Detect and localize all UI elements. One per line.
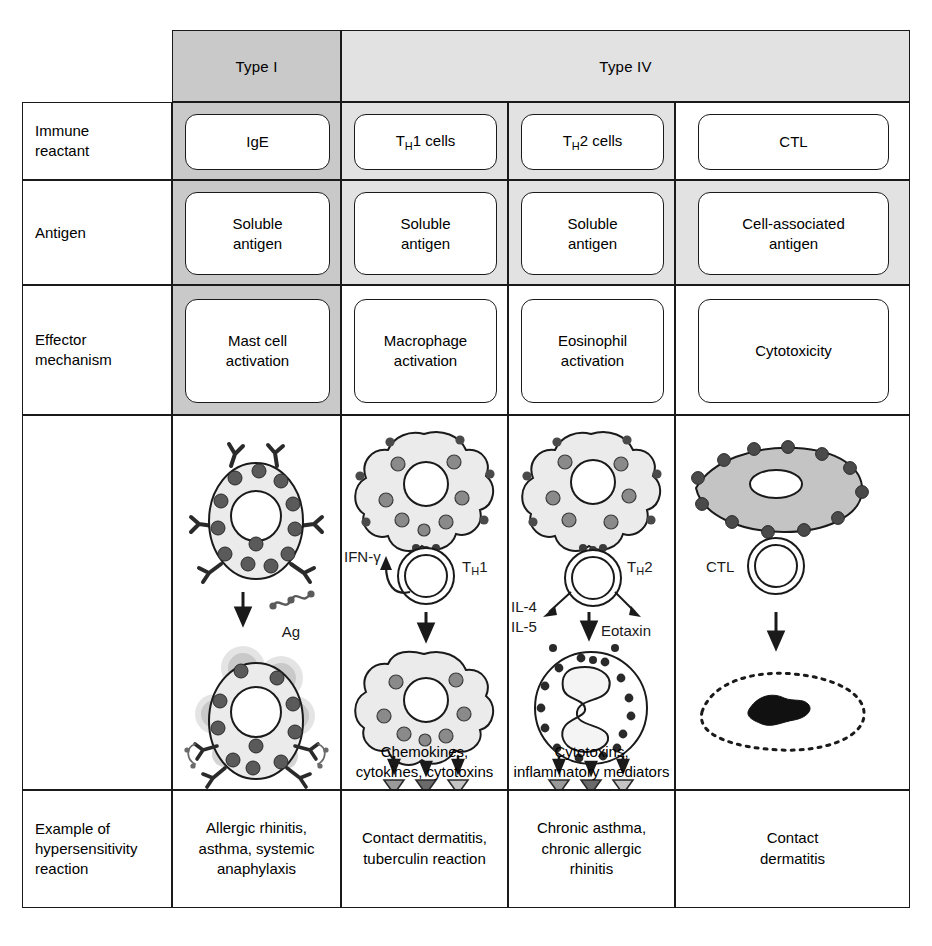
th1-reactant-text: TH1 cells xyxy=(396,131,456,154)
apc-cell-th2 xyxy=(522,432,661,551)
example-text-th2: Chronic asthma, chronic allergic rhiniti… xyxy=(513,818,670,880)
example-text-type-i: Allergic rhinitis, asthma, systemic anap… xyxy=(177,818,336,880)
th2-reactant-text: TH2 cells xyxy=(563,131,623,154)
row-label-effector-mechanism: Effector mechanism xyxy=(35,330,112,370)
illustration-ctl: CTL xyxy=(676,416,909,789)
arrow-down-ctl xyxy=(769,612,783,648)
cell-ctl-illustration: CTL xyxy=(675,415,910,790)
target-cell xyxy=(692,441,869,539)
cell-th1-illustration: TH1 IFN-γ xyxy=(341,415,508,790)
th1-cell xyxy=(398,548,454,604)
antigen-label: Ag xyxy=(282,623,300,640)
row-label-cell-effector-mechanism: Effector mechanism xyxy=(22,285,172,415)
mediator-triangles-th1 xyxy=(384,780,468,789)
ifn-gamma-label: IFN-γ xyxy=(344,548,381,565)
illustration-type-i: Ag xyxy=(173,416,340,789)
macrophage-resting xyxy=(355,432,494,551)
th2-output-label: Cytotoxins, inflammatory mediators xyxy=(509,742,674,781)
cell-th1-example: Contact dermatitis, tuberculin reaction xyxy=(341,790,508,908)
il4-il5-arrow xyxy=(543,592,571,617)
th2-cell xyxy=(565,550,621,606)
ctl-cell-label: CTL xyxy=(706,558,734,575)
cell-type-i-antigen: Soluble antigen xyxy=(172,180,341,285)
antigen-molecule xyxy=(269,590,314,609)
cell-ctl-effector: Cytotoxicity xyxy=(675,285,910,415)
pill-ctl-effector: Cytotoxicity xyxy=(698,299,889,403)
cell-th1-antigen: Soluble antigen xyxy=(341,180,508,285)
header-label-type-i: Type I xyxy=(173,58,340,75)
cell-th2-example: Chronic asthma, chronic allergic rhiniti… xyxy=(508,790,675,908)
cell-th1-effector: Macrophage activation xyxy=(341,285,508,415)
comparison-table: Type I Type IV Immune reactant IgE TH1 c… xyxy=(22,30,910,908)
pill-ctl-antigen: Cell-associated antigen xyxy=(698,192,889,275)
pill-th2-immune-reactant: TH2 cells xyxy=(521,114,664,170)
pill-th1-effector: Macrophage activation xyxy=(354,299,497,403)
cell-th2-effector: Eosinophil activation xyxy=(508,285,675,415)
mediator-triangles-th2 xyxy=(549,780,633,789)
cell-th2-antigen: Soluble antigen xyxy=(508,180,675,285)
th1-cell-label: TH1 xyxy=(462,558,487,577)
pill-type-i-effector: Mast cell activation xyxy=(185,299,330,403)
pill-th1-immune-reactant: TH1 cells xyxy=(354,114,497,170)
cell-type-i-example: Allergic rhinitis, asthma, systemic anap… xyxy=(172,790,341,908)
th2-cell-label: TH2 xyxy=(627,558,652,577)
pill-type-i-antigen: Soluble antigen xyxy=(185,192,330,275)
row-label-cell-illustration xyxy=(22,415,172,790)
example-text-ctl: Contact dermatitis xyxy=(680,828,905,869)
mast-cell-resting xyxy=(191,444,322,582)
cell-type-i-immune-reactant: IgE xyxy=(172,102,341,180)
header-cell-type-iv: Type IV xyxy=(341,30,910,102)
header-label-type-iv: Type IV xyxy=(342,58,909,75)
arrow-down-type-i xyxy=(236,592,250,624)
row-label-immune-reactant: Immune reactant xyxy=(35,121,89,161)
pill-type-i-immune-reactant: IgE xyxy=(185,114,330,170)
pill-th2-effector: Eosinophil activation xyxy=(521,299,664,403)
mast-cell-activated xyxy=(184,646,328,787)
row-label-cell-immune-reactant: Immune reactant xyxy=(22,102,172,180)
cell-type-i-effector: Mast cell activation xyxy=(172,285,341,415)
cell-ctl-antigen: Cell-associated antigen xyxy=(675,180,910,285)
arrow-down-th1 xyxy=(419,612,433,640)
row-label-cell-antigen: Antigen xyxy=(22,180,172,285)
pill-th2-antigen: Soluble antigen xyxy=(521,192,664,275)
header-cell-type-i: Type I xyxy=(172,30,341,102)
eotaxin-arrow xyxy=(615,592,641,617)
il4-label: IL-4 xyxy=(511,598,537,615)
example-text-th1: Contact dermatitis, tuberculin reaction xyxy=(346,828,503,869)
th1-output-label: Chemokines, cytokines, cytotoxins xyxy=(342,742,507,781)
ctl-cell xyxy=(748,538,804,594)
pill-th1-antigen: Soluble antigen xyxy=(354,192,497,275)
cell-type-i-illustration: Ag xyxy=(172,415,341,790)
row-label-antigen: Antigen xyxy=(35,223,86,243)
pill-ctl-immune-reactant: CTL xyxy=(698,114,889,170)
apoptotic-cell xyxy=(701,673,864,750)
row-label-example: Example of hypersensitivity reaction xyxy=(35,819,138,878)
cell-th2-immune-reactant: TH2 cells xyxy=(508,102,675,180)
illustration-th1: TH1 IFN-γ xyxy=(342,416,507,789)
cell-ctl-example: Contact dermatitis xyxy=(675,790,910,908)
row-label-cell-example: Example of hypersensitivity reaction xyxy=(22,790,172,908)
hypersensitivity-types-figure: Type I Type IV Immune reactant IgE TH1 c… xyxy=(0,0,932,946)
cell-ctl-immune-reactant: CTL xyxy=(675,102,910,180)
arrow-down-th2 xyxy=(582,612,596,638)
illustration-th2: TH2 IL-4 IL-5 Eotaxin xyxy=(509,416,674,789)
cell-th1-immune-reactant: TH1 cells xyxy=(341,102,508,180)
cell-th2-illustration: TH2 IL-4 IL-5 Eotaxin xyxy=(508,415,675,790)
il5-label: IL-5 xyxy=(511,618,537,635)
eotaxin-label: Eotaxin xyxy=(601,622,651,639)
